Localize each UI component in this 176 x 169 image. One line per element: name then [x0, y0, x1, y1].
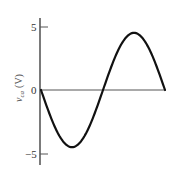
- chart-canvas: 5 0 −5 vca(V): [0, 0, 176, 169]
- y-axis-label: vca(V): [13, 74, 26, 102]
- svg-text:vca(V): vca(V): [13, 74, 26, 102]
- y-tick-label-0: 0: [31, 84, 37, 96]
- y-tick-label-neg5: −5: [25, 148, 37, 160]
- y-tick-label-5: 5: [31, 21, 37, 33]
